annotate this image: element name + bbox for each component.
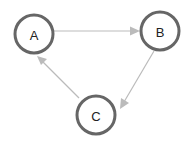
node-a[interactable]: A <box>15 15 53 53</box>
node-b-label: B <box>156 25 165 40</box>
node-c[interactable]: C <box>77 96 115 134</box>
node-b[interactable]: B <box>141 12 179 50</box>
node-c-label: C <box>91 109 100 124</box>
arrowhead-icon <box>120 98 129 109</box>
edge-c-to-a <box>37 56 79 98</box>
edge-a-to-b <box>54 27 140 36</box>
arrowhead-icon <box>37 56 47 65</box>
node-a-label: A <box>30 28 39 43</box>
edge-b-to-c <box>120 51 154 109</box>
arrowhead-icon <box>130 27 140 36</box>
graph-canvas: A B C <box>0 0 193 146</box>
